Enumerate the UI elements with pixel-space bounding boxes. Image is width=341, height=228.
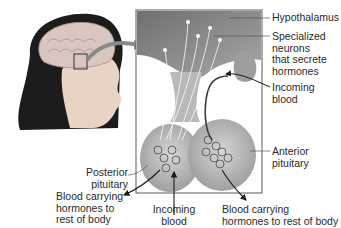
label-blood-carrying-left: Blood carrying hormones to rest of body (56, 191, 123, 226)
anterior-lobe (188, 119, 256, 191)
label-anterior-pituitary: Anterior pituitary (272, 146, 309, 169)
label-incoming-blood-right: Incoming blood (272, 82, 315, 105)
label-specialized-neurons: Specialized neurons that secrete hormone… (272, 31, 327, 77)
head-illustration (18, 14, 122, 130)
label-hypothalamus: Hypothalamus (272, 12, 339, 24)
label-blood-carrying-right: Blood carrying hormones to rest of body (222, 204, 338, 227)
label-posterior-pituitary: Posterior pituitary (86, 167, 128, 190)
label-incoming-blood-bottom: Incoming blood (151, 204, 197, 227)
